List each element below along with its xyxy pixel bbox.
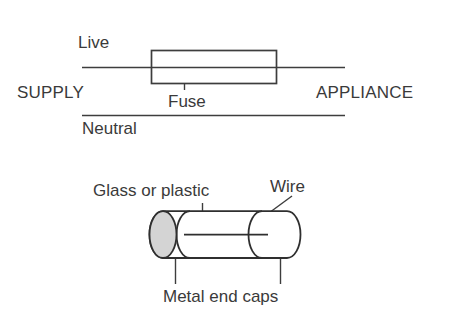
- label-glass-or-plastic: Glass or plastic: [93, 181, 210, 200]
- label-metal-end-caps: Metal end caps: [163, 287, 278, 306]
- label-supply: SUPPLY: [17, 83, 84, 102]
- label-live: Live: [78, 33, 109, 52]
- label-appliance: APPLIANCE: [316, 83, 413, 102]
- fuse-construction-group: Glass or plastic Wire Metal end caps: [93, 177, 305, 306]
- circuit-diagram-group: Live SUPPLY APPLIANCE Fuse Neutral: [17, 33, 413, 138]
- label-fuse: Fuse: [168, 92, 206, 111]
- label-neutral: Neutral: [82, 119, 137, 138]
- fuse-figure: Live SUPPLY APPLIANCE Fuse Neutral: [0, 0, 450, 324]
- label-wire: Wire: [270, 177, 305, 196]
- left-end-face-ellipse: [150, 211, 177, 258]
- figure-canvas: Live SUPPLY APPLIANCE Fuse Neutral: [0, 0, 450, 324]
